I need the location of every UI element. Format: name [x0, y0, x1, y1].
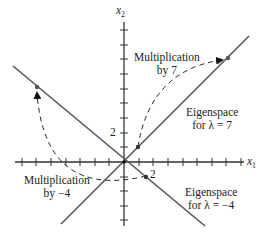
- eigenspace-7-line2: for λ = 7: [186, 119, 238, 132]
- x-tick-label-2: 2: [150, 168, 156, 181]
- y-tick-label-2: 2: [110, 126, 116, 139]
- x-axis: [15, 158, 244, 166]
- eigenspace-7-line1: Eigenspace: [186, 106, 238, 119]
- mult-7-line2: by 7: [134, 64, 200, 77]
- mult-7-line1: Multiplication: [134, 51, 200, 64]
- point-u: [136, 145, 140, 149]
- mult-neg4-label: Multiplication by −4: [24, 174, 90, 200]
- point-neg4v: [35, 85, 39, 89]
- eigenspace-7-label: Eigenspace for λ = 7: [186, 106, 238, 132]
- y-axis: [120, 22, 128, 226]
- eigenspace-neg4-line2: for λ = −4: [185, 199, 237, 212]
- mult-neg4-line2: by −4: [24, 187, 90, 200]
- x2-axis-label: x2: [116, 4, 125, 21]
- mult-7-label: Multiplication by 7: [134, 51, 200, 77]
- point-v: [144, 175, 148, 179]
- point-7u: [226, 56, 230, 60]
- x1-axis-label: x1: [247, 155, 256, 172]
- eigenspace-neg4-label: Eigenspace for λ = −4: [185, 186, 237, 212]
- mult-neg4-arc: [37, 93, 146, 180]
- mult-neg4-line1: Multiplication: [24, 174, 90, 187]
- origin-point: [122, 160, 126, 164]
- eigenspace-neg4-line1: Eigenspace: [185, 186, 237, 199]
- eigenspace-line-lambda-neg4: [13, 66, 205, 226]
